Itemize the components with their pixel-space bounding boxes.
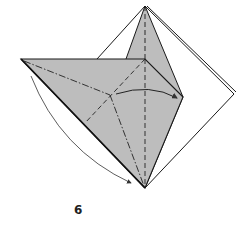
- step-number: 6: [74, 203, 82, 217]
- origami-diagram: [0, 0, 250, 230]
